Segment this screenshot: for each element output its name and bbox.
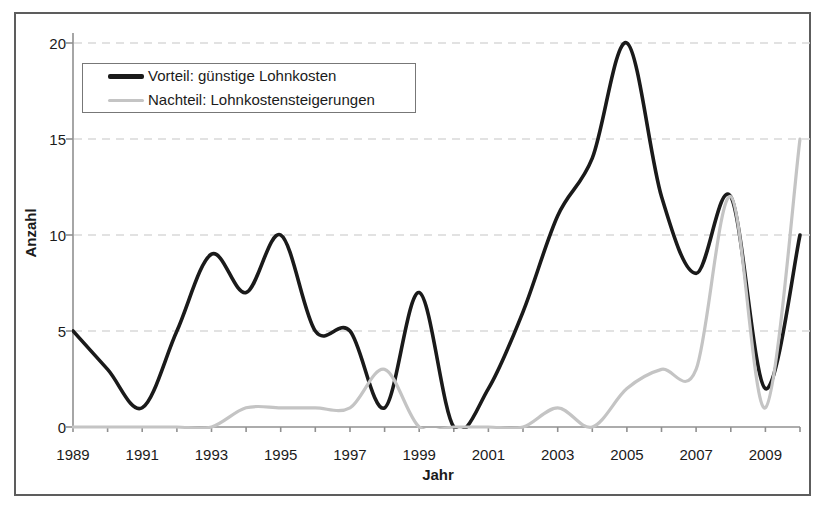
x-tick-label-2003: 2003: [526, 447, 590, 463]
x-tick-label-2007: 2007: [664, 447, 728, 463]
legend-item-nachteil: Nachteil: Lohnkostensteigerungen: [83, 89, 415, 111]
legend-box: Vorteil: günstige Lohnkosten Nachteil: L…: [82, 63, 416, 113]
x-tick-label-1997: 1997: [318, 447, 382, 463]
x-tick-label-1993: 1993: [179, 447, 243, 463]
y-tick-label-15: 15: [18, 132, 66, 147]
vorteil-line-sample: [108, 74, 144, 79]
series-nachteil-line: [73, 139, 800, 431]
x-tick-label-2005: 2005: [595, 447, 659, 463]
x-tick-label-2009: 2009: [733, 447, 797, 463]
nachteil-line-sample: [108, 99, 144, 102]
y-axis-title: Anzahl: [22, 208, 39, 257]
y-tick-label-20: 20: [18, 36, 66, 51]
legend-label-vorteil: Vorteil: günstige Lohnkosten: [148, 68, 336, 84]
legend-label-nachteil: Nachteil: Lohnkostensteigerungen: [148, 92, 375, 108]
y-tick-label-0: 0: [18, 420, 66, 435]
y-axis-ticks: [66, 43, 73, 427]
y-tick-label-5: 5: [18, 324, 66, 339]
legend-item-vorteil: Vorteil: günstige Lohnkosten: [83, 65, 415, 87]
x-axis-title: Jahr: [422, 466, 454, 483]
x-tick-label-1989: 1989: [41, 447, 105, 463]
x-tick-label-1995: 1995: [249, 447, 313, 463]
x-tick-label-2001: 2001: [456, 447, 520, 463]
x-tick-label-1991: 1991: [110, 447, 174, 463]
chart-figure: 05101520 1989199119931995199719992001200…: [0, 0, 823, 511]
x-tick-label-1999: 1999: [387, 447, 451, 463]
